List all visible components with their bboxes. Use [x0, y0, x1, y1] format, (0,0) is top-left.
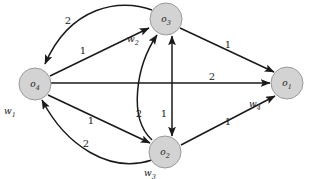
edge-o3-o1: [180, 28, 274, 72]
edge-weight-o2-o3: 2: [136, 108, 142, 119]
edge-weight-o2-o1: 1: [225, 116, 231, 127]
edge-weight-o2-o4: 2: [83, 138, 89, 149]
graph-figure: o3 o4 o1 o2 w1 w2 w3 w4 2 1 1 2 2 1 1 2 …: [0, 0, 309, 179]
node-weight-label-w3: w3: [144, 168, 156, 179]
node-weight-label-w2: w2: [127, 34, 139, 47]
edge-weight-o3-o4: 2: [65, 15, 71, 26]
edge-weight-o4-o2: 1: [88, 115, 94, 126]
edge-weight-o4-o1: 2: [209, 71, 215, 82]
edge-weight-o4-o3: 1: [80, 45, 86, 56]
node-weight-label-w1: w1: [4, 106, 16, 119]
edge-o2-o3-curved: [137, 35, 157, 140]
graph-canvas: o3 o4 o1 o2 w1 w2 w3 w4 2 1 1 2 2 1 1 2 …: [0, 0, 309, 179]
edge-weight-o3-o1: 1: [225, 39, 231, 50]
edge-o4-o2-straight: [48, 95, 150, 143]
node-weight-label-w4: w4: [249, 99, 261, 112]
edge-weight-o3-o2: 1: [161, 108, 167, 119]
